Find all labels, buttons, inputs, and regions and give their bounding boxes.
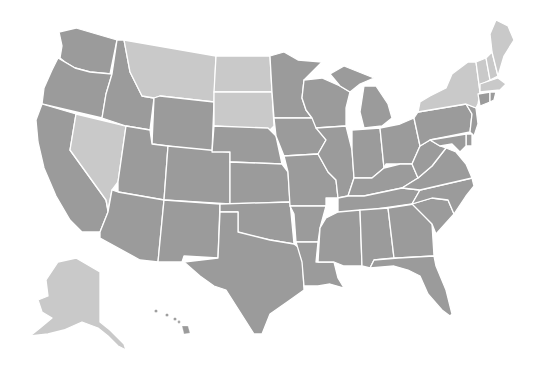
- us-states-map: [0, 0, 540, 371]
- state-new-york[interactable]: [418, 62, 480, 112]
- state-alaska[interactable]: [30, 258, 126, 350]
- state-kansas[interactable]: [230, 162, 290, 204]
- state-florida[interactable]: [370, 256, 452, 316]
- state-wyoming[interactable]: [152, 96, 214, 152]
- state-new-mexico[interactable]: [158, 200, 220, 262]
- state-hawaii[interactable]: [154, 309, 190, 334]
- state-indiana[interactable]: [352, 128, 384, 178]
- state-arizona[interactable]: [100, 190, 164, 262]
- state-mississippi[interactable]: [318, 210, 362, 266]
- state-colorado[interactable]: [164, 146, 230, 204]
- state-delaware[interactable]: [466, 134, 472, 146]
- state-south-dakota[interactable]: [214, 92, 274, 130]
- state-michigan-lower[interactable]: [360, 86, 392, 128]
- state-north-dakota[interactable]: [214, 56, 272, 92]
- state-rhode-island[interactable]: [490, 92, 496, 102]
- state-connecticut[interactable]: [478, 92, 490, 106]
